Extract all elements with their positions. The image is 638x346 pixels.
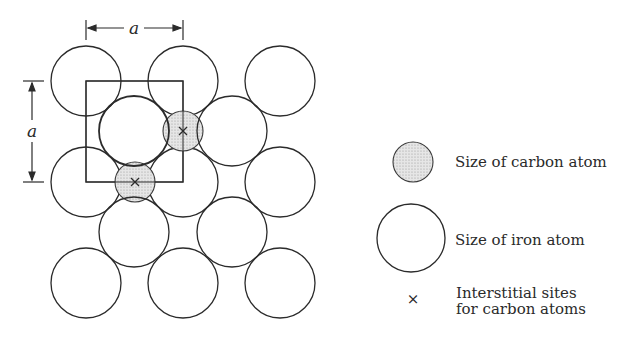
iron-atom-center bbox=[99, 96, 169, 166]
legend-iron-icon bbox=[377, 204, 445, 272]
legend-interstitial-label-line2: for carbon atoms bbox=[456, 300, 586, 318]
legend: Size of carbon atom Size of iron atom × … bbox=[377, 142, 607, 318]
iron-atom bbox=[99, 197, 169, 267]
bcc-iron-lattice-diagram: a a bbox=[0, 0, 638, 346]
iron-atom bbox=[197, 197, 267, 267]
iron-atom bbox=[197, 96, 267, 166]
iron-atom bbox=[148, 248, 218, 318]
horizontal-dimension-label: a bbox=[129, 18, 139, 38]
vertical-dimension-label: a bbox=[27, 121, 37, 141]
legend-iron-label: Size of iron atom bbox=[455, 231, 585, 249]
legend-carbon-label: Size of carbon atom bbox=[455, 153, 607, 171]
legend-interstitial-x-icon: × bbox=[407, 290, 420, 308]
legend-carbon-icon bbox=[393, 142, 433, 182]
